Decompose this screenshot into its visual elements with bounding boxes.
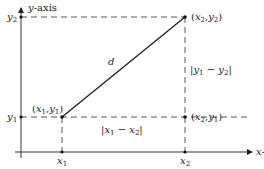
tick-x2-dot: [183, 150, 186, 153]
tick-x1-dot: [60, 150, 63, 153]
point-p3: [183, 115, 187, 119]
point-label-p3: (x2,y1): [191, 111, 222, 124]
distance-diagram: y-axis x-axis y2 y1 x1 x2 (x1,y1) (x2,y2…: [0, 0, 264, 169]
point-p1: [60, 115, 64, 119]
x-axis-label: x-axis: [256, 146, 264, 157]
tick-label-y1: y1: [6, 111, 17, 124]
vertical-distance-label: |y1 − y2|: [190, 64, 232, 77]
tick-label-x1: x1: [57, 155, 67, 168]
distance-label-d: d: [108, 56, 114, 67]
distance-segment: [62, 17, 185, 117]
y-axis-label: y-axis: [27, 2, 57, 13]
tick-y1-dot: [19, 115, 22, 118]
point-p2: [183, 15, 187, 19]
point-label-p1: (x1,y1): [32, 103, 63, 116]
tick-label-x2: x2: [180, 155, 190, 168]
tick-y2-dot: [19, 15, 22, 18]
tick-label-y2: y2: [6, 11, 17, 24]
horizontal-distance-label: |x1 − x2|: [101, 124, 143, 137]
point-label-p2: (x2,y2): [191, 11, 222, 24]
